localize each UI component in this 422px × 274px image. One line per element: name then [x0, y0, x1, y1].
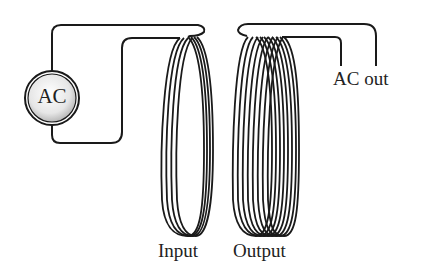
output-coil-icon	[233, 37, 299, 236]
transformer-diagram	[0, 0, 422, 274]
ac-out-label: AC out	[333, 68, 388, 90]
input-coil-icon	[161, 37, 213, 236]
ac-source-label: AC	[30, 84, 74, 109]
output-coil-label: Output	[233, 240, 286, 262]
input-coil-label: Input	[158, 240, 198, 262]
